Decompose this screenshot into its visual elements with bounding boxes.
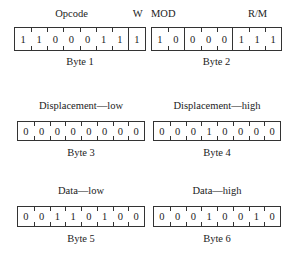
- byte-box: 00010000: [153, 121, 281, 141]
- field-label: R/M: [248, 8, 267, 19]
- bit-cell: 1: [201, 207, 217, 226]
- bit-cell: 1: [65, 207, 81, 226]
- bit-cell: 0: [168, 28, 184, 50]
- bit-cell: 0: [217, 28, 233, 50]
- bit-cell: 0: [65, 122, 81, 140]
- field-label: Data—high: [193, 185, 242, 196]
- bit-cell: 0: [217, 207, 233, 226]
- byte-label: Byte 6: [203, 233, 231, 244]
- byte-label: Byte 3: [67, 147, 95, 158]
- bit-cell: 0: [264, 207, 280, 226]
- bit-cell: 0: [34, 122, 50, 140]
- byte-box: 00010010: [153, 206, 281, 227]
- bit-cell: 1: [249, 207, 265, 226]
- bit-cell: 0: [97, 122, 113, 140]
- bit-cell: 0: [170, 207, 186, 226]
- bit-cell: 1: [50, 207, 66, 226]
- bit-cell: 1: [249, 28, 265, 50]
- bit-cell: 0: [50, 122, 66, 140]
- bit-cell: 0: [18, 207, 34, 226]
- bit-cell: 0: [264, 122, 280, 140]
- field-label: Data—low: [58, 185, 104, 196]
- bit-cell: 0: [154, 122, 170, 140]
- bit-cell: 0: [63, 28, 79, 50]
- bit-cell: 0: [113, 122, 129, 140]
- byte-label: Byte 5: [67, 233, 95, 244]
- bit-cell: 1: [201, 122, 217, 140]
- bit-cell: 0: [80, 28, 96, 50]
- bit-cell: 0: [184, 28, 201, 50]
- byte-box: 11000111: [14, 27, 146, 51]
- bit-cell: 0: [249, 122, 265, 140]
- bit-cell: 1: [152, 28, 168, 50]
- bit-cell: 1: [97, 207, 113, 226]
- bit-cell: 0: [233, 207, 249, 226]
- field-label: W: [133, 8, 143, 19]
- bit-cell: 0: [81, 207, 97, 226]
- field-label: Displacement—high: [174, 100, 261, 111]
- byte-box: 00110100: [17, 206, 145, 227]
- byte-label: Byte 2: [203, 56, 231, 67]
- bit-cell: 0: [186, 207, 202, 226]
- bit-cell: 0: [34, 207, 50, 226]
- bit-cell: 0: [217, 122, 233, 140]
- field-label: Opcode: [55, 8, 88, 19]
- bit-cell: 1: [128, 28, 145, 50]
- byte-box: 00000000: [17, 121, 145, 141]
- bit-cell: 0: [154, 207, 170, 226]
- bit-cell: 0: [233, 122, 249, 140]
- bit-cell: 0: [47, 28, 63, 50]
- bit-cell: 1: [232, 28, 249, 50]
- byte-label: Byte 4: [203, 147, 231, 158]
- bit-cell: 0: [18, 122, 34, 140]
- bit-cell: 1: [31, 28, 47, 50]
- bit-cell: 0: [113, 207, 129, 226]
- bit-cell: 0: [128, 207, 144, 226]
- bit-cell: 0: [81, 122, 97, 140]
- field-label: MOD: [151, 8, 176, 19]
- byte-label: Byte 1: [66, 56, 94, 67]
- bit-cell: 0: [128, 122, 144, 140]
- byte-box: 10000111: [151, 27, 282, 51]
- bit-cell: 0: [201, 28, 217, 50]
- bit-cell: 1: [265, 28, 281, 50]
- bit-cell: 1: [15, 28, 31, 50]
- bit-cell: 0: [170, 122, 186, 140]
- field-label: Displacement—low: [39, 100, 123, 111]
- bit-cell: 0: [186, 122, 202, 140]
- bit-cell: 1: [112, 28, 128, 50]
- bit-cell: 1: [96, 28, 112, 50]
